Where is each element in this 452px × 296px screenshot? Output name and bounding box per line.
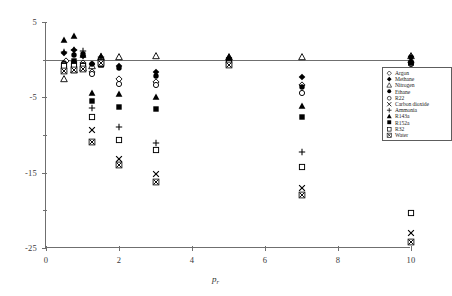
data-point [407,58,416,67]
data-point [115,161,124,170]
data-point [87,125,96,134]
data-point [297,102,306,111]
data-point [151,51,160,60]
x-axis-tick [192,246,193,251]
y-axis-tick [42,22,47,23]
data-point [115,135,124,144]
y-axis-tick [42,173,47,174]
data-point [60,66,69,75]
x-axis-tick-label: 4 [172,255,212,265]
data-point [78,64,87,73]
x-axis-tick-label: 2 [99,255,139,265]
data-point [151,80,160,89]
data-point [96,58,105,67]
data-point [87,60,96,69]
legend-item[interactable]: Water [386,132,449,138]
data-point [407,209,416,218]
x-axis-tick [411,246,412,251]
y-axis-minor-tick [43,60,47,61]
data-point [297,72,306,81]
data-point [151,146,160,155]
data-point [151,104,160,113]
data-point [87,69,96,78]
data-point [78,51,87,60]
data-point [115,63,124,72]
data-point [70,31,79,40]
x-axis-tick [265,246,266,251]
y-axis-tick-label: -25 [25,243,37,253]
y-axis-tick [42,97,47,98]
data-point [297,88,306,97]
x-axis-tick [119,246,120,251]
data-point [115,103,124,112]
x-axis-tick [46,246,47,251]
x-axis-tick [338,246,339,251]
x-axis-tick-label: 8 [318,255,358,265]
x-axis-subscript: r [216,278,219,285]
y-axis-tick-label: -15 [25,168,37,178]
y-axis-tick-label: -5 [30,92,37,102]
plot-area: 5-5-15-250246810 ArgonMethaneNitrogenEth… [45,22,410,248]
data-point [224,60,233,69]
legend-box: ArgonMethaneNitrogenEthaneR22Carbon diox… [382,67,452,141]
x-axis-title: pr [0,274,431,285]
data-point [151,93,160,102]
x-axis-tick-label: 0 [26,255,66,265]
data-points-layer [46,22,410,247]
data-point [297,112,306,121]
data-point [60,36,69,45]
y-axis-minor-tick [43,135,47,136]
data-point [115,79,124,88]
data-point [297,52,306,61]
data-point [297,191,306,200]
data-point [115,90,124,99]
data-point [297,147,306,156]
data-point [60,75,69,84]
data-point [87,137,96,146]
x-axis-tick-label: 6 [245,255,285,265]
data-point [407,228,416,237]
data-point [87,112,96,121]
legend-item-label: Water [395,132,408,138]
data-point [87,97,96,106]
data-point [151,177,160,186]
x-axis-tick-label: 10 [391,255,431,265]
data-point [115,122,124,131]
data-point [60,48,69,57]
data-point [115,52,124,61]
y-axis-tick-label: 5 [33,17,37,27]
legend-marker-icon [386,132,395,138]
data-point [297,163,306,172]
y-axis-minor-tick [43,210,47,211]
